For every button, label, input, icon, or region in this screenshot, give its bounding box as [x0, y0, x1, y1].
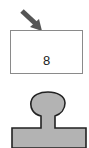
keyhole-shape	[0, 0, 89, 148]
